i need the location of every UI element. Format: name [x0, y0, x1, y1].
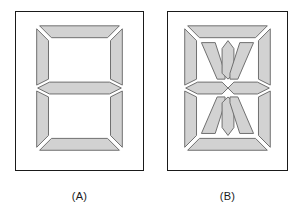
segment-d-bottom	[40, 138, 120, 150]
segment-f-upper-left	[37, 29, 49, 85]
segment-f-upper-left	[185, 29, 197, 85]
segment-k-lower-left-diagonal	[201, 97, 225, 134]
segment-a-top	[40, 26, 120, 38]
segment-c-lower-right	[258, 91, 270, 147]
segment-g1-middle-left	[186, 82, 228, 94]
caption-panel-b: (B)	[167, 190, 288, 202]
segment-b-upper-right	[258, 29, 270, 85]
fourteen-segment-display	[168, 12, 287, 170]
segment-h-upper-left-diagonal	[201, 43, 225, 80]
figure-container: (A) (B)	[0, 0, 303, 219]
segment-g-middle	[38, 82, 122, 94]
segment-c-lower-right	[111, 91, 123, 147]
caption-panel-a: (A)	[15, 190, 144, 202]
segment-a-top	[188, 26, 268, 38]
segment-g2-middle-right	[228, 82, 269, 94]
seven-segment-display	[16, 12, 143, 170]
segment-e-lower-left	[37, 91, 49, 147]
segment-d-bottom	[188, 138, 268, 150]
panel-a-frame	[15, 11, 144, 171]
segment-b-upper-right	[111, 29, 123, 85]
panel-b-frame	[167, 11, 288, 171]
segment-e-lower-left	[185, 91, 197, 147]
